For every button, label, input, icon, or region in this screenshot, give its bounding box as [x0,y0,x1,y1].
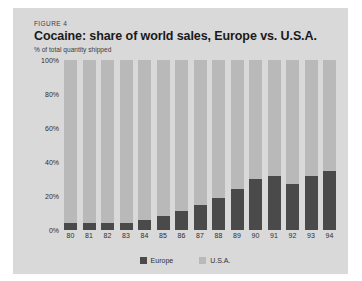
y-axis-tick: 60% [45,125,59,132]
bar-segment-europe [249,179,262,230]
bar-segment-usa [212,60,225,198]
bar-segment-usa [120,60,133,223]
bar-column[interactable] [64,60,77,230]
legend-item[interactable]: Europe [140,257,174,264]
bar-column[interactable] [323,60,336,230]
x-axis-tick: 80 [64,232,77,244]
bar-segment-usa [268,60,281,176]
bar-segment-europe [231,189,244,230]
chart-legend: EuropeU.S.A. [34,257,336,264]
bar-column[interactable] [83,60,96,230]
figure-label: FIGURE 4 [34,20,67,27]
x-axis-tick: 89 [231,232,244,244]
bar-segment-usa [231,60,244,189]
x-axis-tick: 93 [305,232,318,244]
bar-segment-europe [64,223,77,230]
bar-segment-europe [101,223,114,230]
y-axis-tick: 80% [45,91,59,98]
bar-segment-europe [268,176,281,230]
bar-column[interactable] [212,60,225,230]
legend-label: Europe [151,257,174,264]
x-axis-tick: 90 [249,232,262,244]
bar-column[interactable] [286,60,299,230]
x-axis-tick: 84 [138,232,151,244]
bar-segment-usa [175,60,188,211]
bar-segment-europe [323,171,336,231]
x-axis-tick: 81 [83,232,96,244]
bar-segment-europe [157,216,170,230]
bar-segment-usa [83,60,96,223]
bar-segment-usa [194,60,207,205]
legend-swatch-icon [199,257,206,264]
legend-swatch-icon [140,257,147,264]
y-axis-tick: 0% [49,227,59,234]
x-axis-tick: 94 [323,232,336,244]
x-axis-tick: 86 [175,232,188,244]
y-axis: 100%80%60%40%20%0% [34,60,62,230]
bar-segment-europe [83,223,96,230]
bar-segment-usa [101,60,114,223]
bar-segment-usa [138,60,151,220]
bar-column[interactable] [175,60,188,230]
bar-segment-usa [323,60,336,171]
bar-column[interactable] [305,60,318,230]
bar-column[interactable] [231,60,244,230]
bar-chart-plot-area [64,60,336,230]
bar-segment-europe [194,205,207,231]
x-axis-tick: 91 [268,232,281,244]
bar-segment-europe [212,198,225,230]
bar-segment-usa [305,60,318,176]
bar-segment-europe [175,211,188,230]
x-axis-tick: 92 [286,232,299,244]
chart-plot-wrapper: 100%80%60%40%20%0% 808182838485868788899… [34,60,336,242]
bar-segment-usa [249,60,262,179]
y-axis-tick: 100% [41,57,59,64]
bar-column[interactable] [101,60,114,230]
legend-item[interactable]: U.S.A. [199,257,230,264]
y-axis-tick: 20% [45,193,59,200]
legend-label: U.S.A. [210,257,230,264]
chart-subtitle: % of total quantity shipped [34,46,111,53]
x-axis-tick: 85 [157,232,170,244]
bar-segment-europe [286,184,299,230]
x-axis-tick: 82 [101,232,114,244]
bar-column[interactable] [138,60,151,230]
bar-column[interactable] [268,60,281,230]
bar-segment-usa [64,60,77,223]
x-axis-tick: 87 [194,232,207,244]
x-axis-tick: 88 [212,232,225,244]
page-title: Cocaine: share of world sales, Europe vs… [34,29,317,43]
x-axis: 808182838485868788899091929394 [64,232,336,244]
bar-column[interactable] [120,60,133,230]
bar-column[interactable] [249,60,262,230]
bar-segment-usa [286,60,299,184]
bar-segment-usa [157,60,170,216]
bar-column[interactable] [157,60,170,230]
x-axis-tick: 83 [120,232,133,244]
bar-column[interactable] [194,60,207,230]
y-axis-tick: 40% [45,159,59,166]
bar-segment-europe [305,176,318,230]
figure-panel: FIGURE 4 Cocaine: share of world sales, … [13,8,348,274]
bar-segment-europe [138,220,151,230]
bar-segment-europe [120,223,133,230]
